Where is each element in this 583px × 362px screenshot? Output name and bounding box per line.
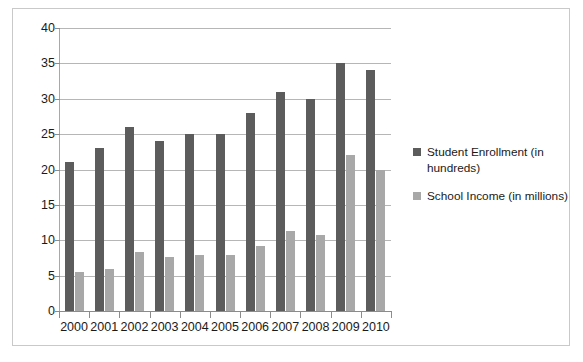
bar-group-2001: [95, 28, 114, 311]
bar-2005-series-1[interactable]: [216, 134, 225, 311]
y-tick-label-20: 20: [25, 164, 55, 177]
legend-label-student-enrollment-line2: hundreds): [427, 161, 480, 175]
y-tick-label-0: 0: [25, 305, 55, 318]
bar-2003-series-2[interactable]: [165, 257, 174, 311]
y-tick-mark-25: [55, 134, 60, 135]
legend-label-school-income: School Income (in millions): [427, 189, 568, 203]
x-tick-label-2005: 2005: [209, 321, 241, 335]
y-tick-label-5: 5: [25, 270, 55, 283]
bar-2009-series-1[interactable]: [336, 63, 345, 311]
bar-2006-series-2[interactable]: [256, 246, 265, 311]
bar-2008-series-1[interactable]: [306, 99, 315, 311]
x-tick-label-2000: 2000: [58, 321, 90, 335]
x-tick-mark-0: [59, 312, 60, 318]
bar-2002-series-1[interactable]: [125, 127, 134, 311]
bar-2007-series-2[interactable]: [286, 231, 295, 311]
y-tick-mark-15: [55, 205, 60, 206]
y-tick-mark-30: [55, 99, 60, 100]
y-tick-label-40: 40: [25, 22, 55, 35]
chart-container: 0510152025303540 Student Enrollment (in …: [12, 8, 570, 346]
x-tick-mark-9: [331, 312, 332, 318]
legend-swatch-student-enrollment: [413, 148, 421, 156]
bar-2001-series-1[interactable]: [95, 148, 104, 311]
bar-2000-series-1[interactable]: [65, 162, 74, 311]
y-tick-label-35: 35: [25, 57, 55, 70]
x-tick-label-2009: 2009: [330, 321, 362, 335]
bar-group-2003: [155, 28, 174, 311]
x-tick-mark-1: [89, 312, 90, 318]
x-tick-mark-2: [119, 312, 120, 318]
bar-2002-series-2[interactable]: [135, 252, 144, 311]
y-tick-label-10: 10: [25, 234, 55, 247]
x-tick-mark-10: [361, 312, 362, 318]
y-tick-label-15: 15: [25, 199, 55, 212]
x-tick-label-2002: 2002: [118, 321, 150, 335]
bar-group-2005: [216, 28, 235, 311]
x-tick-mark-6: [240, 312, 241, 318]
y-tick-mark-5: [55, 276, 60, 277]
x-tick-mark-7: [270, 312, 271, 318]
bar-2000-series-2[interactable]: [75, 272, 84, 311]
y-tick-mark-35: [55, 63, 60, 64]
bar-group-2006: [246, 28, 265, 311]
bar-2003-series-1[interactable]: [155, 141, 164, 311]
x-tick-mark-4: [180, 312, 181, 318]
x-tick-mark-3: [150, 312, 151, 318]
legend-item-student-enrollment[interactable]: Student Enrollment (in hundreds): [413, 145, 573, 177]
bar-group-2004: [185, 28, 204, 311]
legend-item-school-income[interactable]: School Income (in millions): [413, 189, 573, 205]
bar-2009-series-2[interactable]: [346, 155, 355, 311]
chart-legend: Student Enrollment (in hundreds) School …: [413, 145, 573, 217]
x-tick-label-2010: 2010: [360, 321, 392, 335]
x-tick-mark-8: [300, 312, 301, 318]
x-tick-label-2007: 2007: [269, 321, 301, 335]
y-tick-mark-40: [55, 28, 60, 29]
legend-label-student-enrollment-line1: Student Enrollment (in: [427, 145, 544, 159]
bar-2001-series-2[interactable]: [105, 269, 114, 311]
bar-2006-series-1[interactable]: [246, 113, 255, 311]
x-tick-label-2001: 2001: [88, 321, 120, 335]
bar-2005-series-2[interactable]: [226, 255, 235, 311]
plot-area: [59, 28, 391, 311]
y-tick-label-30: 30: [25, 93, 55, 106]
y-tick-mark-20: [55, 170, 60, 171]
bar-group-2008: [306, 28, 325, 311]
bar-2008-series-2[interactable]: [316, 235, 325, 311]
bar-2010-series-1[interactable]: [366, 70, 375, 311]
y-axis-labels: 0510152025303540: [21, 9, 55, 329]
bar-group-2009: [336, 28, 355, 311]
x-tick-label-2008: 2008: [300, 321, 332, 335]
bar-group-2007: [276, 28, 295, 311]
legend-swatch-school-income: [413, 192, 421, 200]
x-tick-mark-5: [210, 312, 211, 318]
y-tick-mark-10: [55, 240, 60, 241]
x-tick-mark-end: [391, 312, 392, 318]
bar-group-2000: [65, 28, 84, 311]
x-tick-label-2006: 2006: [239, 321, 271, 335]
x-tick-label-2004: 2004: [179, 321, 211, 335]
x-axis-line: [59, 311, 392, 312]
x-tick-label-2003: 2003: [149, 321, 181, 335]
y-tick-label-25: 25: [25, 128, 55, 141]
bar-group-2010: [366, 28, 385, 311]
bar-2010-series-2[interactable]: [376, 170, 385, 312]
bar-2007-series-1[interactable]: [276, 92, 285, 311]
bar-2004-series-2[interactable]: [195, 255, 204, 311]
bar-group-2002: [125, 28, 144, 311]
bar-2004-series-1[interactable]: [185, 134, 194, 311]
